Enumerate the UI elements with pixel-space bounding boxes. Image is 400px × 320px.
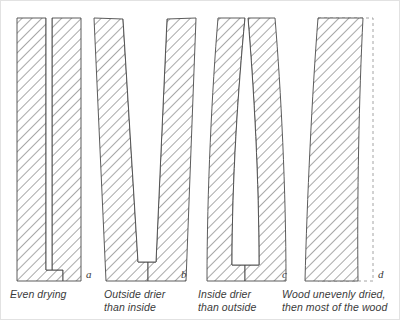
panel-d-label: d bbox=[378, 268, 384, 280]
panel-b-label: b bbox=[181, 268, 187, 280]
panel-b: b bbox=[94, 18, 196, 281]
caption-c-line-2: than outside bbox=[198, 301, 282, 314]
caption-d: Wood unevenly dried, then most of the wo… bbox=[282, 288, 400, 314]
panel-d: d bbox=[305, 18, 384, 281]
caption-b-line-1: Outside drier bbox=[104, 288, 192, 301]
caption-a-line-1: Even drying bbox=[10, 288, 96, 301]
caption-c-line-1: Inside drier bbox=[198, 288, 282, 301]
panel-c: c bbox=[207, 18, 287, 281]
panel-a-right-prong bbox=[52, 18, 81, 281]
panel-a-label: a bbox=[86, 268, 92, 280]
panel-d-body bbox=[305, 18, 363, 281]
caption-d-line-2: then most of the wood bbox=[282, 301, 400, 314]
diagram-page: a b c bbox=[0, 0, 400, 320]
figure-area: a b c bbox=[0, 0, 400, 320]
caption-b-line-2: than inside bbox=[104, 301, 192, 314]
panel-c-label: c bbox=[282, 268, 287, 280]
caption-d-line-1: Wood unevenly dried, bbox=[282, 288, 400, 301]
caption-b: Outside drier than inside bbox=[104, 288, 192, 314]
caption-a: Even drying bbox=[10, 288, 96, 301]
caption-row: Even drying Outside drier than inside In… bbox=[0, 288, 400, 320]
caption-c: Inside drier than outside bbox=[198, 288, 282, 314]
wood-drying-diagram: a b c bbox=[0, 0, 400, 320]
panel-a-slot bbox=[46, 18, 52, 270]
panel-a: a bbox=[17, 18, 92, 281]
